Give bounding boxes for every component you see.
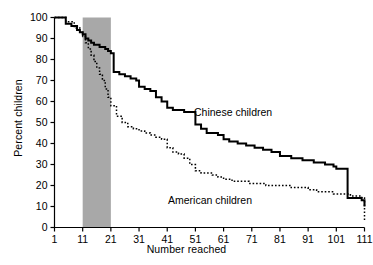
y-tick-label: 20 [36, 179, 48, 191]
y-tick-label: 30 [36, 158, 48, 170]
y-tick-label: 80 [36, 53, 48, 65]
y-tick-label: 100 [30, 11, 48, 23]
y-tick-label: 40 [36, 137, 48, 149]
chart-plot-area: 0102030405060708090100111213141516171819… [0, 0, 373, 265]
y-tick-label: 60 [36, 95, 48, 107]
y-tick-label: 50 [36, 116, 48, 128]
american-children-label: American children [168, 194, 252, 206]
chinese-children-label: Chinese children [194, 106, 272, 118]
y-tick-label: 10 [36, 200, 48, 212]
y-tick-label: 70 [36, 74, 48, 86]
chart-figure: 0102030405060708090100111213141516171819… [0, 0, 373, 265]
y-tick-label: 0 [42, 221, 48, 233]
y-axis-title: Percent children [12, 43, 24, 193]
y-tick-label: 90 [36, 32, 48, 44]
x-axis-title: Number reached [0, 243, 373, 255]
